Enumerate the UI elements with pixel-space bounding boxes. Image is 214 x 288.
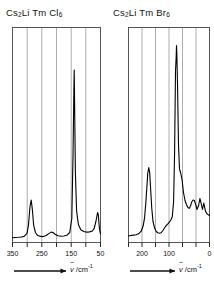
xticks-left [13, 243, 101, 248]
plot-left: 350 250 150 50 [0, 0, 107, 288]
raman-spectra-figure: Cs2Li Tm Cl6 [0, 0, 214, 288]
axis-unit: /cm [76, 265, 88, 274]
xtick-label: 150 [65, 250, 77, 257]
xtick-labels-left: 350 250 150 50 [7, 250, 105, 257]
xtick-label: 250 [36, 250, 48, 257]
xticks-right [129, 243, 210, 248]
axis-unit-exponent: -1 [197, 263, 202, 269]
xtick-label: 50 [97, 250, 105, 257]
axis-caption-left: v /cm-1 [70, 263, 93, 274]
spectrum-panel-left: Cs2Li Tm Cl6 [0, 0, 107, 288]
wavenumber-symbol: v [179, 265, 183, 274]
axis-direction-arrow-left [14, 268, 66, 273]
xtick-label: 0 [208, 250, 212, 257]
plot-right: 200 100 0 [107, 0, 214, 288]
xtick-label: 200 [136, 250, 148, 257]
axis-unit: /cm [185, 265, 197, 274]
xtick-labels-right: 200 100 0 [136, 250, 211, 257]
spectrum-panel-right: Cs2Li Tm Br6 200 100 [107, 0, 214, 288]
xtick-label: 350 [7, 250, 19, 257]
axis-unit-exponent: -1 [88, 263, 93, 269]
wavenumber-symbol: v [70, 265, 74, 274]
xtick-label: 100 [163, 250, 175, 257]
axis-direction-arrow-right [130, 268, 175, 273]
axis-caption-right: v /cm-1 [179, 263, 202, 274]
